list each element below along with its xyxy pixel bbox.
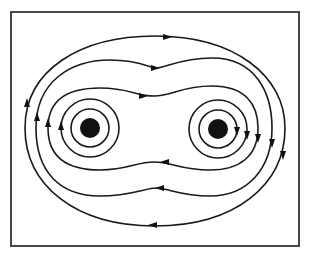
arrow-down-icon [234,127,240,136]
arrow-right-icon [163,34,172,40]
arrow-left-icon [148,222,157,228]
arrow-up-icon [45,118,51,127]
arrow-left-icon [160,159,169,165]
right-wire-group [189,100,250,158]
left-wire-group [58,99,119,157]
diagram-frame [11,12,299,246]
arrow-up-icon [58,121,64,130]
arrow-left-icon [155,185,164,191]
right-wire [208,119,228,139]
arrow-right-icon [139,93,148,99]
magnetic-field-diagram [0,0,310,255]
arrow-right-icon [151,65,160,71]
left-wire [80,118,100,138]
arrow-up-icon [34,112,40,121]
